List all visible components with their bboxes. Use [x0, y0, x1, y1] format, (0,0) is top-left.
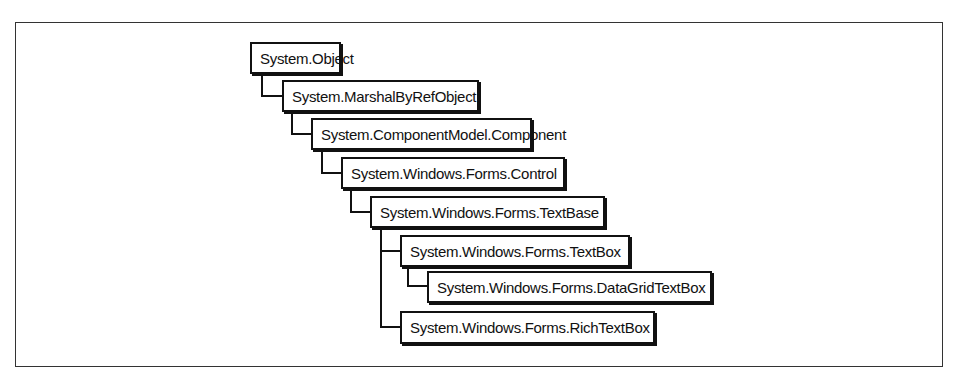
- connector-control-textbase: [351, 189, 370, 212]
- connector-marshal-component: [292, 112, 311, 134]
- class-label: System.Windows.Forms.TextBase: [380, 204, 599, 221]
- connector-textbox-datagridtextbox: [408, 267, 427, 286]
- class-node-system-object: System.Object: [250, 42, 341, 74]
- class-label: System.Windows.Forms.DataGridTextBox: [437, 279, 705, 296]
- class-node-textbase: System.Windows.Forms.TextBase: [370, 196, 605, 228]
- class-node-textbox: System.Windows.Forms.TextBox: [400, 235, 630, 267]
- class-label: System.ComponentModel.Component: [321, 126, 566, 143]
- class-node-marshal-by-ref-object: System.MarshalByRefObject: [282, 80, 479, 112]
- class-label: System.Windows.Forms.TextBox: [410, 243, 621, 260]
- class-label: System.Object: [260, 50, 354, 67]
- connector-textbase-richtextbox: [381, 228, 400, 327]
- class-node-richtextbox: System.Windows.Forms.RichTextBox: [400, 311, 655, 344]
- class-label: System.Windows.Forms.RichTextBox: [410, 319, 650, 336]
- class-label: System.Windows.Forms.Control: [351, 165, 557, 182]
- connector-object-marshal: [262, 73, 282, 96]
- class-node-component: System.ComponentModel.Component: [311, 118, 532, 150]
- class-node-control: System.Windows.Forms.Control: [341, 157, 565, 189]
- class-label: System.MarshalByRefObject: [292, 88, 476, 105]
- class-node-datagridtextbox: System.Windows.Forms.DataGridTextBox: [427, 271, 712, 303]
- connector-component-control: [322, 150, 341, 173]
